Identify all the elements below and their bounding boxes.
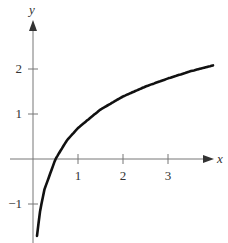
x-tick-label-1: 1 [75,168,82,183]
y-tick-label-1: 1 [16,106,23,121]
y-tick-label-neg1: −1 [8,196,22,211]
chart: 1 2 3 2 1 −1 x y [0,0,228,243]
y-tick-label-2: 2 [16,61,23,76]
x-tick-label-2: 2 [120,168,127,183]
x-tick-label-3: 3 [165,168,172,183]
y-axis-label: y [27,2,35,17]
y-axis-arrow-icon [29,20,37,31]
x-axis-arrow-icon [203,155,214,163]
curve-ln-2x [37,65,213,236]
x-axis-label: x [216,151,223,166]
